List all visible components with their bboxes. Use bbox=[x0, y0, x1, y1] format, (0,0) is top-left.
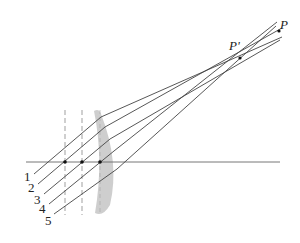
label-p: P bbox=[280, 18, 288, 31]
axis-dot-2 bbox=[80, 160, 84, 164]
optics-diagram: P P' 1 2 3 4 5 bbox=[0, 0, 300, 243]
axis-dot-3 bbox=[98, 160, 102, 164]
ray-label-5: 5 bbox=[45, 214, 52, 227]
label-p-prime: P' bbox=[229, 39, 240, 52]
point-p-prime bbox=[238, 56, 241, 59]
ray-1 bbox=[34, 37, 282, 174]
ray-3 bbox=[44, 40, 280, 194]
ray-2 bbox=[38, 28, 282, 184]
axis-dot-1 bbox=[63, 160, 67, 164]
ray-4 bbox=[49, 22, 277, 204]
